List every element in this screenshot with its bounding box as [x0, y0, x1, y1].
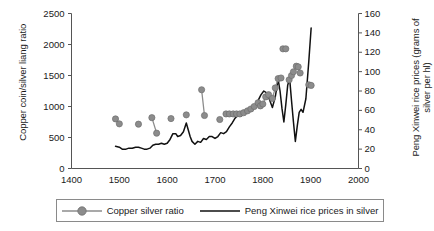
left-axis-tick-label: 2000: [35, 39, 65, 50]
copper-ratio-marker: [201, 112, 207, 118]
right-axis-tick-label: 160: [365, 8, 395, 19]
right-axis-tick-label: 20: [365, 143, 395, 154]
copper-ratio-marker: [269, 95, 275, 101]
left-axis-tick-label: 0: [35, 163, 65, 174]
x-axis-tick-label: 1600: [147, 174, 187, 185]
copper-ratio-marker: [154, 130, 160, 136]
copper-ratio-marker: [297, 70, 303, 76]
copper-ratio-marker: [260, 101, 266, 107]
legend-label-copper-silver-ratio: Copper silver ratio: [107, 205, 184, 216]
left-axis-tick-label: 1500: [35, 70, 65, 81]
legend-item-rice-prices: Peng Xinwei rice prices in silver: [200, 205, 379, 217]
line-swatch-icon: [200, 205, 240, 217]
legend-item-copper-silver-ratio: Copper silver ratio: [62, 205, 184, 217]
copper-ratio-marker: [168, 115, 174, 121]
left-axis-tick-label: 2500: [35, 8, 65, 19]
circle-marker-icon: [62, 205, 102, 217]
right-axis-tick-label: 60: [365, 104, 395, 115]
copper-ratio-marker: [283, 46, 289, 52]
copper-ratio-marker: [290, 69, 296, 75]
chart-legend: Copper silver ratio Peng Xinwei rice pri…: [56, 199, 384, 222]
right-axis-tick-label: 0: [365, 163, 395, 174]
copper-ratio-marker: [308, 82, 314, 88]
right-axis-tick-label: 40: [365, 124, 395, 135]
x-axis-tick-label: 1900: [291, 174, 331, 185]
x-axis-tick-label: 1400: [52, 174, 92, 185]
right-axis-tick-label: 100: [365, 66, 395, 77]
left-axis-tick-label: 500: [35, 132, 65, 143]
right-axis-tick-label: 80: [365, 85, 395, 96]
copper-ratio-marker: [217, 116, 223, 122]
right-axis-tick-label: 140: [365, 27, 395, 38]
copper-ratio-marker: [149, 115, 155, 121]
copper-ratio-marker: [135, 121, 141, 127]
x-axis-tick-label: 2000: [339, 174, 379, 185]
x-axis-tick-label: 1700: [195, 174, 235, 185]
copper-ratio-marker: [116, 121, 122, 127]
copper-ratio-marker: [295, 64, 301, 70]
copper-ratio-line-segment: [202, 90, 205, 116]
copper-ratio-marker: [272, 85, 278, 91]
legend-label-rice-prices: Peng Xinwei rice prices in silver: [245, 205, 379, 216]
x-axis-tick-label: 1800: [243, 174, 283, 185]
right-axis-tick-label: 120: [365, 46, 395, 57]
left-axis-tick-label: 1000: [35, 101, 65, 112]
chart-container: Copper coin/silver liang ratio Peng Xinw…: [0, 0, 434, 231]
x-axis-tick-label: 1500: [99, 174, 139, 185]
copper-ratio-marker: [183, 112, 189, 118]
copper-ratio-marker: [278, 75, 284, 81]
copper-ratio-marker: [199, 87, 205, 93]
